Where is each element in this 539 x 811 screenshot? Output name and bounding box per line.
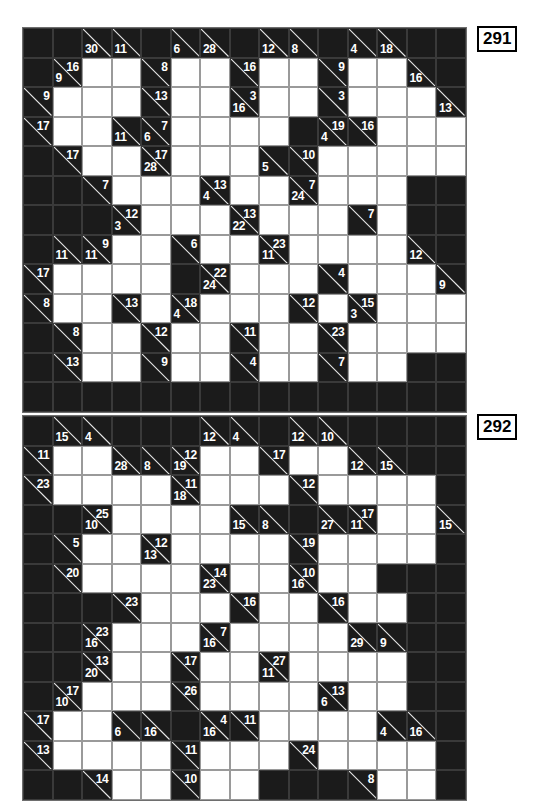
entry-cell[interactable] [318, 446, 348, 476]
entry-cell[interactable] [112, 623, 142, 653]
entry-cell[interactable] [82, 741, 112, 771]
entry-cell[interactable] [82, 353, 112, 383]
entry-cell[interactable] [200, 682, 230, 712]
entry-cell[interactable] [318, 146, 348, 176]
entry-cell[interactable] [200, 593, 230, 623]
entry-cell[interactable] [171, 353, 201, 383]
entry-cell[interactable] [377, 294, 407, 324]
entry-cell[interactable] [318, 294, 348, 324]
entry-cell[interactable] [318, 205, 348, 235]
entry-cell[interactable] [289, 87, 319, 117]
entry-cell[interactable] [289, 711, 319, 741]
entry-cell[interactable] [407, 534, 437, 564]
entry-cell[interactable] [377, 264, 407, 294]
entry-cell[interactable] [230, 564, 260, 594]
entry-cell[interactable] [230, 652, 260, 682]
entry-cell[interactable] [348, 264, 378, 294]
entry-cell[interactable] [230, 475, 260, 505]
entry-cell[interactable] [436, 146, 466, 176]
entry-cell[interactable] [200, 294, 230, 324]
entry-cell[interactable] [200, 205, 230, 235]
entry-cell[interactable] [200, 741, 230, 771]
entry-cell[interactable] [82, 264, 112, 294]
entry-cell[interactable] [112, 534, 142, 564]
entry-cell[interactable] [200, 534, 230, 564]
entry-cell[interactable] [289, 323, 319, 353]
entry-cell[interactable] [171, 505, 201, 535]
entry-cell[interactable] [112, 564, 142, 594]
entry-cell[interactable] [112, 176, 142, 206]
entry-cell[interactable] [112, 475, 142, 505]
entry-cell[interactable] [200, 446, 230, 476]
entry-cell[interactable] [259, 711, 289, 741]
entry-cell[interactable] [200, 475, 230, 505]
entry-cell[interactable] [407, 741, 437, 771]
entry-cell[interactable] [377, 146, 407, 176]
entry-cell[interactable] [377, 117, 407, 147]
entry-cell[interactable] [112, 323, 142, 353]
entry-cell[interactable] [82, 87, 112, 117]
entry-cell[interactable] [53, 741, 83, 771]
entry-cell[interactable] [377, 505, 407, 535]
entry-cell[interactable] [141, 593, 171, 623]
entry-cell[interactable] [348, 534, 378, 564]
entry-cell[interactable] [318, 623, 348, 653]
entry-cell[interactable] [259, 294, 289, 324]
entry-cell[interactable] [112, 235, 142, 265]
entry-cell[interactable] [53, 711, 83, 741]
entry-cell[interactable] [289, 58, 319, 88]
entry-cell[interactable] [348, 682, 378, 712]
entry-cell[interactable] [259, 58, 289, 88]
entry-cell[interactable] [259, 741, 289, 771]
entry-cell[interactable] [377, 353, 407, 383]
entry-cell[interactable] [377, 475, 407, 505]
entry-cell[interactable] [230, 682, 260, 712]
entry-cell[interactable] [318, 741, 348, 771]
entry-cell[interactable] [259, 117, 289, 147]
entry-cell[interactable] [53, 117, 83, 147]
entry-cell[interactable] [436, 117, 466, 147]
entry-cell[interactable] [377, 323, 407, 353]
entry-cell[interactable] [112, 652, 142, 682]
entry-cell[interactable] [377, 682, 407, 712]
entry-cell[interactable] [377, 593, 407, 623]
entry-cell[interactable] [318, 564, 348, 594]
entry-cell[interactable] [348, 323, 378, 353]
entry-cell[interactable] [407, 475, 437, 505]
entry-cell[interactable] [82, 682, 112, 712]
entry-cell[interactable] [171, 146, 201, 176]
entry-cell[interactable] [141, 623, 171, 653]
entry-cell[interactable] [53, 294, 83, 324]
entry-cell[interactable] [112, 682, 142, 712]
entry-cell[interactable] [230, 146, 260, 176]
entry-cell[interactable] [171, 564, 201, 594]
entry-cell[interactable] [377, 58, 407, 88]
entry-cell[interactable] [230, 235, 260, 265]
entry-cell[interactable] [289, 652, 319, 682]
entry-cell[interactable] [141, 770, 171, 800]
entry-cell[interactable] [200, 323, 230, 353]
entry-cell[interactable] [259, 176, 289, 206]
entry-cell[interactable] [141, 294, 171, 324]
entry-cell[interactable] [259, 353, 289, 383]
entry-cell[interactable] [141, 564, 171, 594]
entry-cell[interactable] [171, 534, 201, 564]
entry-cell[interactable] [200, 652, 230, 682]
entry-cell[interactable] [289, 623, 319, 653]
entry-cell[interactable] [171, 176, 201, 206]
entry-cell[interactable] [112, 770, 142, 800]
entry-cell[interactable] [171, 117, 201, 147]
entry-cell[interactable] [171, 593, 201, 623]
entry-cell[interactable] [200, 146, 230, 176]
entry-cell[interactable] [259, 87, 289, 117]
entry-cell[interactable] [141, 264, 171, 294]
entry-cell[interactable] [112, 58, 142, 88]
entry-cell[interactable] [348, 593, 378, 623]
entry-cell[interactable] [259, 623, 289, 653]
entry-cell[interactable] [82, 323, 112, 353]
entry-cell[interactable] [377, 235, 407, 265]
entry-cell[interactable] [348, 652, 378, 682]
entry-cell[interactable] [377, 652, 407, 682]
entry-cell[interactable] [230, 770, 260, 800]
entry-cell[interactable] [82, 475, 112, 505]
